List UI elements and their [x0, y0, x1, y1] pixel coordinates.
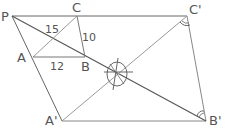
label-bprime: B'	[209, 113, 222, 128]
label-a: A	[17, 50, 26, 65]
measure-ac: 15	[45, 23, 59, 36]
segment-cprime-bprime	[187, 16, 206, 121]
label-p: P	[1, 9, 9, 24]
label-cprime: C'	[189, 2, 202, 17]
label-b: B	[81, 59, 90, 74]
geometry-diagram: P C C' A B A' B' 15 10 12	[0, 0, 226, 132]
measure-cb: 10	[82, 31, 96, 44]
measure-ab: 12	[50, 60, 64, 73]
label-aprime: A'	[45, 113, 57, 128]
angle-mark-bprime-inner	[199, 113, 204, 117]
segment-p-bprime	[12, 16, 206, 121]
label-c: C	[72, 0, 81, 15]
